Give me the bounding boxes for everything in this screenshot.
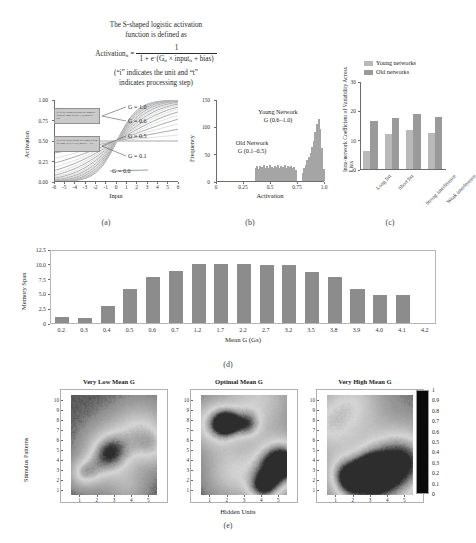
panel-a-y-tick: 0.75 xyxy=(24,118,48,124)
heatmap-y-tickmark xyxy=(191,400,193,401)
panel-d-x-tick: 2.7 xyxy=(262,327,270,333)
heatmap-y-tick: 7 xyxy=(180,427,189,433)
panel-b-y-tickmark xyxy=(214,127,216,128)
heatmap-y-tickmark xyxy=(61,480,63,481)
heatmap-y-tickmark xyxy=(191,460,193,461)
panel-a-x-tickmark xyxy=(126,182,127,184)
panel-d-x-tick: 0.7 xyxy=(171,327,179,333)
panel-a-x-tickmark xyxy=(85,182,86,184)
panel-b-y-tickmark xyxy=(214,100,216,101)
colorbar-tick-label: 0.2 xyxy=(432,470,439,476)
panel-d-x-tick: 1.2 xyxy=(194,327,202,333)
panel-c-bar xyxy=(363,151,370,169)
heatmap-y-tick: 10 xyxy=(180,397,189,403)
panel-d-y-tick: 12.5 xyxy=(20,247,46,253)
heatmap-y-tick: 2 xyxy=(180,477,189,483)
heatmap-x-tick: 5 xyxy=(277,497,280,503)
panel-a-x-tickmark xyxy=(167,182,168,184)
heatmap-x-tick: 3 xyxy=(243,497,246,503)
heatmap-very-high-mean-g: Very High Mean G 1234567891012345 xyxy=(306,378,424,506)
panel-b-y-tick: 0 xyxy=(186,179,210,185)
panel-d-y-tickmark xyxy=(48,279,50,280)
heatmap-y-tickmark xyxy=(317,470,319,471)
panel-d-x-tick: 0.6 xyxy=(148,327,156,333)
panel-b-x-tick: 0 xyxy=(215,184,218,190)
heatmap-x-tick: 1 xyxy=(334,497,337,503)
heatmap-y-tickmark xyxy=(317,410,319,411)
panel-d-bar xyxy=(78,318,92,323)
panel-a-x-tickmark xyxy=(95,182,96,184)
panel-a-x-tick: -6 xyxy=(52,184,57,190)
equation-lhs: Activationit xyxy=(95,49,128,59)
legend-swatch-young xyxy=(364,61,373,66)
panel-c-category-label: Short list xyxy=(396,173,414,191)
heatmap-y-tick: 5 xyxy=(306,447,315,453)
equation-denominator: 1 + e−(Git × inputit + bias) xyxy=(136,54,216,65)
heatmap-x-tick: 5 xyxy=(147,497,150,503)
panel-d-bar xyxy=(169,271,183,323)
panel-a-y-tickmark xyxy=(52,100,54,101)
panel-a-x-tick: -2 xyxy=(93,184,98,190)
panel-d-bar xyxy=(350,289,364,323)
equation-numerator: 1 xyxy=(136,43,216,54)
panel-d-x-tick: 3.9 xyxy=(353,327,361,333)
panel-a-x-tickmark xyxy=(116,182,117,184)
heatmap-x-tickmark xyxy=(209,495,210,497)
equation-line-2: function is defined as xyxy=(28,30,284,40)
panel-a-x-tick: 3 xyxy=(146,184,149,190)
heatmap-y-tickmark xyxy=(61,400,63,401)
heatmap-x-tickmark xyxy=(244,495,245,497)
heatmap-x-tickmark xyxy=(131,495,132,497)
panel-b: 050100150 00.250.50.751.0 Frequency Acti… xyxy=(186,96,336,204)
panel-d-x-tick: 3.5 xyxy=(307,327,315,333)
panel-c-y-tickmark xyxy=(358,140,360,141)
heatmap-y-tickmark xyxy=(61,410,63,411)
heatmap-x-tickmark xyxy=(404,495,405,497)
panel-d-x-tick: 4.1 xyxy=(398,327,406,333)
heatmap-y-tickmark xyxy=(61,450,63,451)
panel-b-y-label: Frequency xyxy=(188,135,195,162)
heatmap-y-tick: 7 xyxy=(306,427,315,433)
colorbar-tick-label: 0.1 xyxy=(432,481,439,487)
heatmap-y-tick: 10 xyxy=(50,397,59,403)
panel-d: 02.55.07.510.012.5 0.20.30.40.50.60.71.2… xyxy=(18,248,442,348)
heatmap-title-0: Very Low Mean G xyxy=(50,378,168,385)
heatmap-y-tick: 5 xyxy=(50,447,59,453)
heatmap-y-tick: 2 xyxy=(50,477,59,483)
heatmap-y-tick: 9 xyxy=(50,407,59,413)
heatmap-y-tickmark xyxy=(191,490,193,491)
heatmap-y-tick: 4 xyxy=(180,457,189,463)
panel-a-x-tickmark xyxy=(147,182,148,184)
panel-b-x-tick: 1.0 xyxy=(321,184,328,190)
panel-d-bar xyxy=(214,264,228,323)
panel-d-bar xyxy=(396,295,410,323)
panel-a-gain-label: G = 0.0 xyxy=(112,168,131,174)
panel-d-bar xyxy=(192,264,206,323)
heatmap-x-tick: 1 xyxy=(208,497,211,503)
heatmap-y-tick: 2 xyxy=(306,477,315,483)
panel-b-annotation-old-line2: G (0.1–0.5) xyxy=(238,147,267,154)
heatmap-y-tick: 3 xyxy=(180,467,189,473)
heatmap-x-tickmark xyxy=(278,495,279,497)
panel-a-gain-label: G = 0.1 xyxy=(128,153,147,159)
panel-a-y-label: Activation xyxy=(23,131,30,158)
heatmap-y-tick: 4 xyxy=(306,457,315,463)
heatmap-y-tick: 6 xyxy=(50,437,59,443)
panel-c-bar xyxy=(370,121,377,169)
panel-b-y-tickmark xyxy=(214,154,216,155)
heatmap-y-tick: 8 xyxy=(306,417,315,423)
panel-b-annotation-young: Young Network G (0.6–1.0) xyxy=(258,108,297,124)
panel-a-y-tick: 0.00 xyxy=(24,179,48,185)
heatmap-y-tick: 9 xyxy=(306,407,315,413)
heatmap-x-tickmark xyxy=(370,495,371,497)
panel-b-x-tickmark xyxy=(216,182,217,184)
heatmap-canvas-1 xyxy=(201,395,287,495)
panel-a-gain-label: G = 0.6 xyxy=(128,118,147,124)
panel-d-x-tick: 3.2 xyxy=(285,327,293,333)
panel-d-y-tickmark xyxy=(48,309,50,310)
heatmap-x-tickmark xyxy=(79,495,80,497)
heatmap-x-tick: 2 xyxy=(96,497,99,503)
panel-b-x-label: Activation xyxy=(257,192,284,199)
panel-e: Very Low Mean G 1234567891012345 Optimal… xyxy=(16,378,458,538)
